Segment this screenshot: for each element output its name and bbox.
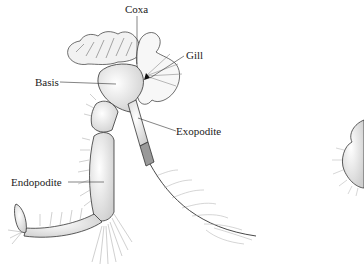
label-gill: Gill (186, 50, 203, 61)
label-basis: Basis (35, 77, 59, 88)
label-endopodite: Endopodite (11, 177, 62, 188)
exopodite (128, 100, 154, 166)
epipodite-lobe (68, 32, 140, 65)
label-exopodite: Exopodite (176, 126, 221, 137)
gill-lobes (136, 33, 182, 105)
second-appendage-partial (342, 120, 364, 188)
label-coxa: Coxa (125, 4, 148, 15)
endopodite (15, 101, 119, 237)
